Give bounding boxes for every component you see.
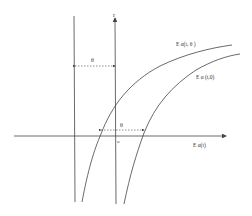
curve-lower: [124, 54, 240, 204]
upper-curve-label: E α(t, θ ): [176, 41, 196, 48]
origin-label: o: [117, 139, 120, 144]
vertical-axis-label: r: [113, 12, 115, 18]
vertical-axis: [115, 18, 116, 204]
top-shift-label: θ: [91, 57, 94, 63]
curve-upper: [82, 45, 232, 202]
shifted-vertical-line: [74, 16, 75, 202]
diagram-canvas: r E α(t) o E α(t, θ ) E α (t,0) θ θ: [0, 0, 252, 216]
bottom-shift-label: θ: [120, 122, 123, 128]
horizontal-axis-label: E α(t): [193, 142, 206, 149]
lower-curve-label: E α (t,0): [196, 74, 214, 81]
